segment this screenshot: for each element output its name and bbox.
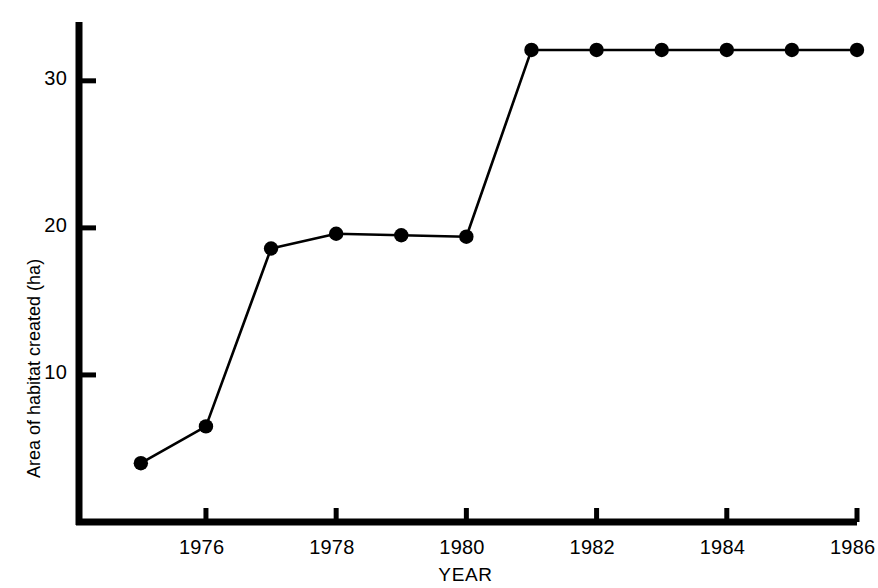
data-point-1982[interactable]	[589, 43, 603, 57]
series-line	[141, 50, 857, 463]
data-point-1977[interactable]	[264, 241, 278, 255]
y-tick-label-10: 10	[44, 361, 67, 384]
axis-group	[76, 22, 857, 525]
data-point-1985[interactable]	[785, 43, 799, 57]
data-point-1984[interactable]	[720, 43, 734, 57]
data-point-1981[interactable]	[524, 43, 538, 57]
y-tick-label-30: 30	[44, 67, 67, 90]
data-point-1980[interactable]	[459, 230, 473, 244]
x-tick-label-1982: 1982	[570, 536, 615, 559]
chart-container: 102030 197619781980198219841986 Area of …	[0, 0, 878, 588]
y-axis-title: Area of habitat created (ha)	[24, 259, 45, 478]
data-point-1978[interactable]	[329, 227, 343, 241]
x-tick-label-1976: 1976	[179, 536, 224, 559]
x-tick-label-1978: 1978	[309, 536, 354, 559]
x-tick-label-1980: 1980	[439, 536, 484, 559]
line-chart-plot	[0, 0, 878, 588]
data-point-1976[interactable]	[199, 419, 213, 433]
data-point-1975[interactable]	[134, 456, 148, 470]
data-point-1986[interactable]	[850, 43, 864, 57]
data-series-group	[134, 43, 865, 471]
x-axis-title: YEAR	[438, 564, 492, 586]
data-point-1983[interactable]	[654, 43, 668, 57]
x-tick-label-1986: 1986	[830, 536, 875, 559]
x-tick-label-1984: 1984	[700, 536, 745, 559]
y-tick-label-20: 20	[44, 214, 67, 237]
data-point-1979[interactable]	[394, 228, 408, 242]
